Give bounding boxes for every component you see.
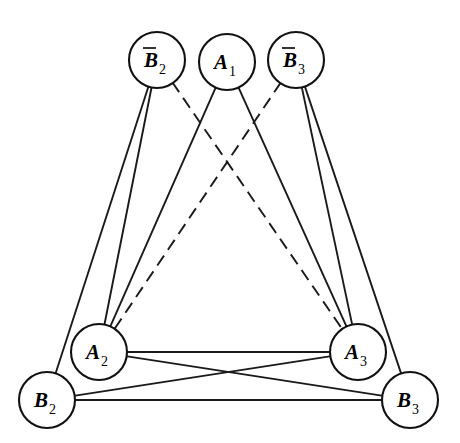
node-A2[interactable]: A2 [71,324,127,380]
node-label-base-A1: A [212,50,228,74]
node-label-subscript-A1: 1 [229,64,236,79]
graph-canvas: B2A1B3A2A3B2B3 [0,0,460,443]
node-label-subscript-A2: 2 [101,354,108,369]
node-B3[interactable]: B3 [382,372,438,428]
node-label-subscript-Bbar2: 2 [159,62,166,77]
edge-Bbar2-A3 [172,82,342,330]
edge-Bbar2-A2 [104,86,151,325]
node-layer: B2A1B3A2A3B2B3 [19,32,438,428]
node-label-base-Bbar3: B [282,48,297,72]
node-label-base-B2: B [33,388,48,412]
edge-A1-A2 [110,87,216,328]
node-label-subscript-B3: 3 [412,402,419,417]
node-B2[interactable]: B2 [19,372,75,428]
node-Bbar3[interactable]: B3 [268,32,324,88]
node-label-subscript-A3: 3 [360,354,367,369]
node-label-base-B3: B [396,388,411,412]
node-label-subscript-Bbar3: 3 [298,62,305,77]
node-label-subscript-B2: 2 [49,402,56,417]
node-A3[interactable]: A3 [330,324,386,380]
node-label-base-A3: A [343,340,359,364]
graph-diagram: B2A1B3A2A3B2B3 [0,0,460,443]
node-label-base-A2: A [84,340,100,364]
node-label-base-Bbar2: B [143,48,158,72]
node-Bbar2[interactable]: B2 [129,32,185,88]
node-A1[interactable]: A1 [199,34,255,90]
